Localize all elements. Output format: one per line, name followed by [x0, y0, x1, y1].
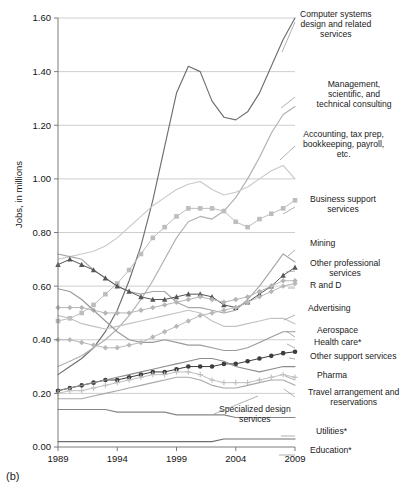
data-marker — [79, 311, 84, 316]
data-marker — [150, 334, 155, 339]
y-tick-label: 0.20 — [33, 388, 52, 399]
data-marker — [281, 206, 286, 211]
y-tick-label: 1.60 — [33, 12, 52, 23]
data-marker — [91, 303, 96, 308]
data-marker — [79, 305, 84, 310]
y-tick-label: 1.00 — [33, 173, 52, 184]
data-marker — [280, 278, 285, 283]
series-label: Pharma — [317, 370, 347, 380]
series-label: services — [327, 204, 359, 214]
data-marker — [245, 225, 250, 230]
series-lines — [55, 18, 298, 442]
x-tick-labels: 19891994199920042009 — [47, 453, 305, 464]
data-marker — [162, 225, 167, 230]
data-marker — [162, 329, 167, 334]
data-marker — [198, 206, 203, 211]
series-label: Computer systems — [300, 9, 372, 19]
series-15 — [58, 439, 295, 442]
data-marker — [162, 302, 167, 307]
data-marker — [233, 297, 238, 302]
data-marker — [269, 289, 274, 294]
series-label: Management, — [328, 79, 381, 89]
series-label: Other support services — [310, 351, 396, 361]
series-label: services — [329, 268, 361, 278]
label-leader-line — [289, 358, 295, 359]
line-chart: 0.000.200.400.600.801.001.201.401.60 198… — [0, 0, 415, 502]
data-marker — [79, 262, 84, 267]
label-leader-line — [284, 389, 295, 397]
data-marker — [67, 305, 72, 310]
series-label: etc. — [337, 149, 351, 159]
data-marker — [174, 324, 179, 329]
data-marker — [245, 294, 250, 299]
data-marker — [257, 217, 262, 222]
series-line — [58, 165, 295, 259]
label-leader-line — [287, 344, 295, 348]
data-marker — [103, 275, 108, 280]
data-marker — [233, 219, 238, 224]
data-marker — [293, 198, 298, 203]
y-tick-label: 0.00 — [33, 441, 52, 452]
panel-identifier: (b) — [6, 470, 19, 482]
series-labels: Computer systemsdesign and relatedservic… — [219, 9, 400, 455]
data-marker — [139, 252, 144, 257]
series-2 — [58, 165, 295, 259]
series-label: services — [239, 414, 271, 424]
data-marker — [292, 264, 297, 269]
data-marker — [174, 214, 179, 219]
label-leader-line — [280, 146, 295, 160]
data-marker — [198, 364, 203, 369]
series-label: Education* — [310, 445, 352, 455]
data-marker — [150, 305, 155, 310]
series-label: Accounting, tax prep, — [303, 129, 384, 139]
y-axis-title-text: Jobs, in millions — [13, 161, 24, 228]
data-marker — [186, 206, 191, 211]
data-marker — [138, 340, 143, 345]
series-label: Travel arrangement and — [308, 387, 400, 397]
series-label: Specialized design — [219, 404, 291, 414]
label-leader-line — [286, 271, 295, 272]
data-marker — [79, 340, 84, 345]
label-leader-line — [281, 97, 295, 108]
data-marker — [293, 350, 298, 355]
data-marker — [186, 318, 191, 323]
y-tick-label: 0.80 — [33, 227, 52, 238]
data-marker — [67, 337, 72, 342]
y-tick-label: 1.20 — [33, 120, 52, 131]
data-marker — [115, 345, 120, 350]
data-marker — [127, 268, 132, 273]
data-marker — [257, 356, 262, 361]
data-marker — [280, 283, 285, 288]
series-label: Business support — [310, 194, 377, 204]
leader-lines — [214, 22, 295, 455]
series-label: technical consulting — [317, 99, 392, 109]
data-marker — [210, 206, 215, 211]
series-label: Utilities* — [316, 426, 348, 436]
data-marker — [269, 354, 274, 359]
x-tick-label: 1994 — [107, 453, 128, 464]
series-label: Other professional — [310, 258, 380, 268]
data-marker — [126, 342, 131, 347]
series-label: services — [320, 29, 352, 39]
y-tick-label: 1.40 — [33, 66, 52, 77]
axes — [54, 18, 295, 451]
data-marker — [151, 236, 156, 241]
y-tick-label: 0.60 — [33, 281, 52, 292]
series-label: design and related — [301, 19, 372, 29]
data-marker — [280, 273, 285, 278]
x-tick-label: 1989 — [47, 453, 68, 464]
chart-figure: 0.000.200.400.600.801.001.201.401.60 198… — [0, 0, 415, 502]
series-label: R and D — [310, 280, 342, 290]
series-label: Aerospace — [317, 325, 358, 335]
y-axis-title: Jobs, in millions — [8, 161, 26, 228]
series-label: scientific, and — [328, 89, 380, 99]
label-leader-line — [288, 250, 295, 256]
series-label: Mining — [310, 238, 336, 248]
data-marker — [138, 308, 143, 313]
label-leader-line — [284, 315, 295, 320]
data-marker — [222, 209, 227, 214]
series-label: Health care* — [314, 337, 362, 347]
data-marker — [103, 292, 108, 297]
series-label: reservations — [330, 397, 377, 407]
data-marker — [126, 310, 131, 315]
